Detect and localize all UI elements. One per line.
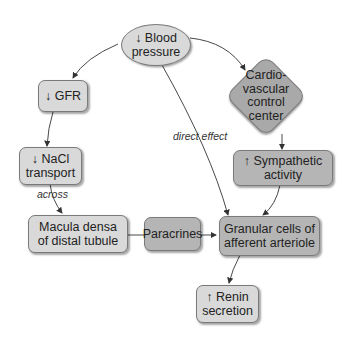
up-arrow-icon: ↑ <box>206 290 212 304</box>
edge-granular-renin <box>229 255 240 283</box>
edge-label-across: across <box>37 188 68 200</box>
edge-bp-gfr <box>73 44 118 78</box>
down-arrow-icon: ↓ <box>135 31 141 45</box>
up-arrow-icon: ↑ <box>244 154 250 168</box>
node-renin-secretion: ↑ Renin secretion <box>196 285 259 323</box>
edge-symp-granular <box>263 185 280 215</box>
down-arrow-icon: ↓ <box>45 89 51 103</box>
node-macula-densa: Macula densa of distal tubule <box>28 215 128 253</box>
node-nacl-transport: ↓ NaCl transport <box>19 147 82 185</box>
edge-gfr-nacl <box>47 112 53 146</box>
node-cardiovascular-control-center: Cardio- vascular control center <box>237 67 295 125</box>
edge-bp-cardio <box>190 38 245 70</box>
node-gfr: ↓ GFR <box>38 80 88 112</box>
edge-label-direct-effect: direct effect <box>173 130 227 142</box>
node-blood-pressure: ↓ Blood pressure <box>121 24 191 66</box>
node-sympathetic-activity: ↑ Sympathetic activity <box>233 150 333 186</box>
node-paracrines: Paracrines <box>144 217 201 251</box>
down-arrow-icon: ↓ <box>32 152 38 166</box>
node-granular-cells: Granular cells of afferent arteriole <box>219 216 320 256</box>
